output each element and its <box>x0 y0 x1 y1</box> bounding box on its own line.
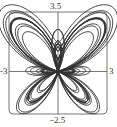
y-max-tick-label: 3.5 <box>50 2 61 11</box>
butterfly-curve <box>0 5 117 114</box>
y-min-tick-label: −2.5 <box>49 116 65 125</box>
polar-plot <box>0 0 117 127</box>
x-min-tick-label: -3 <box>0 67 8 76</box>
x-max-tick-label: 3 <box>109 67 114 76</box>
